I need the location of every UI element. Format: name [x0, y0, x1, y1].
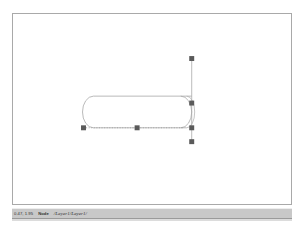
handle-middle-lower[interactable] — [189, 125, 194, 130]
handle-baseline-center[interactable] — [135, 125, 140, 130]
status-mode-label: Node — [37, 211, 50, 217]
handle-bottom[interactable] — [189, 139, 194, 144]
status-layer-path[interactable]: /Layer1/Layer1/ — [53, 211, 88, 217]
canvas-artwork — [13, 14, 291, 204]
status-bar-shadow — [12, 219, 292, 221]
cylinder-left-cap — [83, 96, 94, 128]
handle-middle-upper[interactable] — [189, 101, 194, 106]
handle-baseline-left[interactable] — [81, 125, 86, 130]
handle-top[interactable] — [189, 56, 194, 61]
drawing-canvas[interactable] — [12, 13, 292, 205]
status-coordinates: 0.47, 1.95 — [12, 211, 34, 217]
status-bar: 0.47, 1.95 Node /Layer1/Layer1/ — [12, 208, 292, 219]
application-window: 0.47, 1.95 Node /Layer1/Layer1/ — [0, 0, 305, 231]
